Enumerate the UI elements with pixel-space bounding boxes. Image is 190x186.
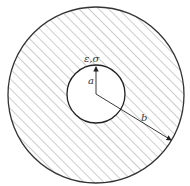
annulus-diagram: ε,σ a b bbox=[0, 0, 190, 186]
label-epsilon-sigma: ε,σ bbox=[84, 53, 101, 64]
label-b: b bbox=[141, 112, 147, 123]
label-a: a bbox=[88, 75, 94, 86]
